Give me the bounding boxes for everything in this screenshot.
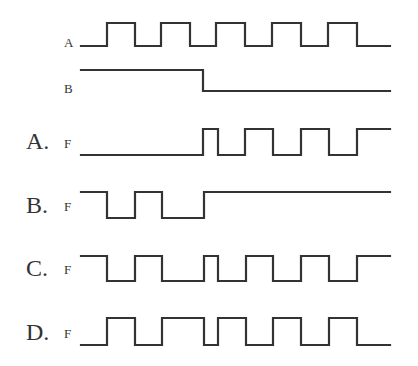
option-label-b: B. xyxy=(26,192,48,218)
option-label-d: D. xyxy=(26,319,49,345)
option-label-a: A. xyxy=(26,128,49,154)
timing-diagram: A B A. F B. F C. F D. F xyxy=(0,0,418,366)
waveform-option-c xyxy=(81,256,390,281)
waveform-option-b xyxy=(81,192,390,218)
option-d[interactable]: D. F xyxy=(26,318,390,345)
output-label-f: F xyxy=(64,136,71,151)
signal-label-a: A xyxy=(64,35,74,50)
waveform-option-a xyxy=(81,129,390,155)
waveform-option-d xyxy=(81,318,390,345)
output-label-f: F xyxy=(64,326,71,341)
input-signal-b: B xyxy=(64,70,390,96)
option-b[interactable]: B. F xyxy=(26,192,390,218)
waveform-b xyxy=(81,70,390,91)
option-a[interactable]: A. F xyxy=(26,128,390,155)
output-label-f: F xyxy=(64,262,71,277)
output-label-f: F xyxy=(64,199,71,214)
option-c[interactable]: C. F xyxy=(26,255,390,281)
waveform-a xyxy=(81,23,390,46)
input-signal-a: A xyxy=(64,23,390,50)
option-label-c: C. xyxy=(26,255,48,281)
signal-label-b: B xyxy=(64,81,73,96)
